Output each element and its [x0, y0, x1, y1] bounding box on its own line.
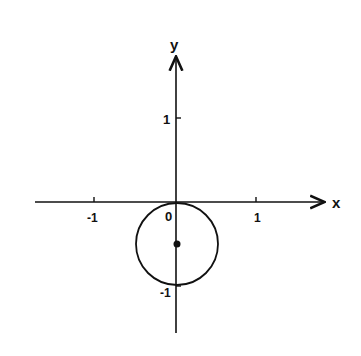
diagram-canvas: x y -1 1 0 1 -1 — [0, 0, 361, 356]
x-tick-label-neg1: -1 — [87, 211, 98, 225]
x-axis-label: x — [332, 194, 341, 211]
y-tick-label-1: 1 — [163, 112, 170, 127]
circle-center-point — [174, 241, 181, 248]
y-tick-label-neg1: -1 — [160, 286, 171, 300]
x-tick-label-1: 1 — [254, 211, 261, 225]
y-axis-label: y — [170, 36, 179, 53]
origin-label: 0 — [165, 209, 172, 224]
